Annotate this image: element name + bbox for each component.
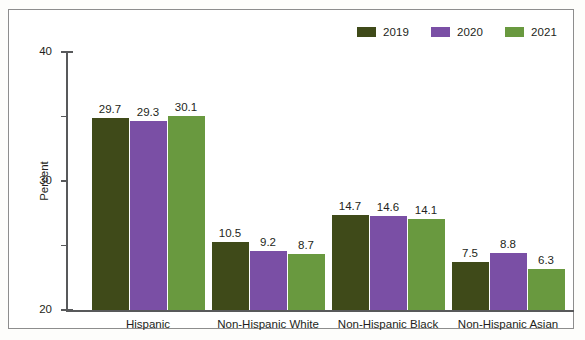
- chart-figure: 201920202021 Percent 010203040 29.729.33…: [0, 0, 585, 340]
- bar-2020-non-hispanic-asian[interactable]: 8.8: [490, 253, 527, 310]
- bar-value-label: 8.7: [298, 239, 314, 251]
- bar-groups: 29.729.330.1Hispanic10.59.28.7Non-Hispan…: [66, 52, 574, 310]
- legend-label: 2019: [383, 26, 409, 38]
- x-axis-category-label: Hispanic: [126, 318, 170, 330]
- bar-2020-non-hispanic-white[interactable]: 9.2: [250, 251, 287, 310]
- legend-label: 2021: [531, 26, 557, 38]
- legend-swatch-icon: [505, 27, 524, 37]
- bar-group-4: 7.58.86.3Non-Hispanic Asian: [452, 52, 565, 310]
- x-axis-line: [66, 310, 574, 312]
- bar-rect: [130, 121, 167, 310]
- y-tick-label: 20: [39, 303, 52, 315]
- bar-2021-hispanic[interactable]: 30.1: [168, 116, 205, 310]
- bar-value-label: 9.2: [260, 236, 276, 248]
- legend-swatch-icon: [357, 27, 376, 37]
- legend-label: 2020: [457, 26, 483, 38]
- bar-value-label: 7.5: [462, 247, 478, 259]
- legend-entry-2021[interactable]: 2021: [505, 26, 557, 38]
- bar-rect: [288, 254, 325, 310]
- legend-entry-2019[interactable]: 2019: [357, 26, 409, 38]
- bar-value-label: 29.3: [137, 106, 159, 118]
- bar-value-label: 14.6: [377, 201, 399, 213]
- bar-2019-non-hispanic-white[interactable]: 10.5: [212, 242, 249, 310]
- bar-rect: [408, 219, 445, 310]
- bar-group-1: 29.729.330.1Hispanic: [92, 52, 205, 310]
- bar-2019-non-hispanic-asian[interactable]: 7.5: [452, 262, 489, 310]
- bar-value-label: 6.3: [538, 254, 554, 266]
- bar-rect: [528, 269, 565, 310]
- bar-rect: [490, 253, 527, 310]
- bar-2019-non-hispanic-black[interactable]: 14.7: [332, 215, 369, 310]
- bar-2021-non-hispanic-asian[interactable]: 6.3: [528, 269, 565, 310]
- bar-rect: [168, 116, 205, 310]
- bar-rect: [370, 216, 407, 310]
- y-tick-label: 30: [39, 174, 52, 186]
- bar-2019-hispanic[interactable]: 29.7: [92, 118, 129, 310]
- chart-legend: 201920202021: [357, 26, 557, 38]
- bar-value-label: 8.8: [500, 238, 516, 250]
- bar-2020-non-hispanic-black[interactable]: 14.6: [370, 216, 407, 310]
- bar-rect: [332, 215, 369, 310]
- bar-rect: [212, 242, 249, 310]
- bar-rect: [92, 118, 129, 310]
- legend-entry-2020[interactable]: 2020: [431, 26, 483, 38]
- x-axis-category-label: Non-Hispanic White: [217, 318, 319, 330]
- bar-value-label: 14.7: [339, 200, 361, 212]
- bar-value-label: 14.1: [415, 204, 437, 216]
- bar-2020-hispanic[interactable]: 29.3: [130, 121, 167, 310]
- bar-group-3: 14.714.614.1Non-Hispanic Black: [332, 52, 445, 310]
- legend-swatch-icon: [431, 27, 450, 37]
- bar-value-label: 10.5: [219, 227, 241, 239]
- y-tick-label: 40: [39, 45, 52, 57]
- bar-group-2: 10.59.28.7Non-Hispanic White: [212, 52, 325, 310]
- bar-value-label: 29.7: [99, 103, 121, 115]
- plot-area: Percent 010203040 29.729.330.1Hispanic10…: [66, 52, 574, 310]
- bar-2021-non-hispanic-white[interactable]: 8.7: [288, 254, 325, 310]
- bar-value-label: 30.1: [175, 101, 197, 113]
- bar-2021-non-hispanic-black[interactable]: 14.1: [408, 219, 445, 310]
- x-axis-category-label: Non-Hispanic Black: [338, 318, 438, 330]
- x-axis-category-label: Non-Hispanic Asian: [458, 318, 558, 330]
- bar-rect: [452, 262, 489, 310]
- chart-frame: 201920202021 Percent 010203040 29.729.33…: [8, 9, 574, 329]
- bar-rect: [250, 251, 287, 310]
